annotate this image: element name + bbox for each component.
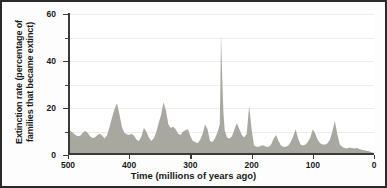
y-axis-title: Extinction rate (percentage of families … <box>12 2 38 162</box>
x-tick-label-500: 500 <box>61 160 75 170</box>
x-tick-label-200: 200 <box>245 160 259 170</box>
y-axis-title-line-2: families that became extinct) <box>25 22 36 142</box>
y-tick-label-0: 0 <box>51 150 56 160</box>
extinction-rate-area-path <box>68 35 374 155</box>
x-tick-label-300: 300 <box>183 160 197 170</box>
extinction-rate-chart-figure: Extinction rate (percentage of families … <box>0 0 387 188</box>
x-tick-label-400: 400 <box>122 160 136 170</box>
plot-area: 0204060 5004003002001000 <box>68 14 374 155</box>
y-tick-label-20: 20 <box>47 103 56 113</box>
x-axis-line <box>68 153 374 155</box>
x-tick-100 <box>313 155 314 159</box>
x-tick-200 <box>252 155 253 159</box>
y-tick-label-40: 40 <box>47 56 56 66</box>
y-axis-title-line-1: Extinction rate (percentage of <box>14 20 25 144</box>
x-tick-label-100: 100 <box>306 160 320 170</box>
y-tick-minor-10 <box>65 132 68 133</box>
y-tick-label-60: 60 <box>47 9 56 19</box>
y-tick-minor-30 <box>65 85 68 86</box>
x-tick-400 <box>129 155 130 159</box>
y-tick-60: 60 <box>63 14 68 15</box>
x-tick-label-0: 0 <box>372 160 377 170</box>
x-tick-0 <box>374 155 375 159</box>
x-tick-300 <box>190 155 191 159</box>
y-tick-40: 40 <box>63 61 68 62</box>
extinction-rate-area-series <box>68 14 374 155</box>
x-tick-500 <box>68 155 69 159</box>
y-tick-20: 20 <box>63 108 68 109</box>
x-axis-title: Time (millions of years ago) <box>2 170 385 181</box>
y-tick-minor-50 <box>65 38 68 39</box>
y-axis-line <box>68 13 70 155</box>
